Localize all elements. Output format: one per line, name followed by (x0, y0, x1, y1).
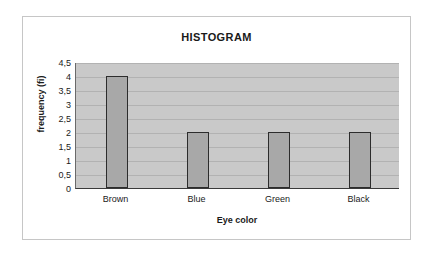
y-axis-tick-label: 0 (66, 185, 71, 194)
bar-green (268, 132, 290, 188)
y-axis-tick-label: 4 (66, 73, 71, 82)
bar-blue (187, 132, 209, 188)
plot-area (75, 63, 399, 189)
x-axis-tick-label: Brown (75, 194, 156, 205)
y-axis-tick-label: 4,5 (58, 59, 71, 68)
x-axis-title: Eye color (75, 215, 399, 225)
y-axis-tick-label: 0,5 (58, 171, 71, 180)
y-axis-tick-label: 1 (66, 157, 71, 166)
y-axis-tick-label: 2,5 (58, 115, 71, 124)
chart-frame: HISTOGRAM frequency (fi) 4,543,532,521,5… (22, 16, 411, 240)
x-axis-tick-label: Blue (156, 194, 237, 205)
y-axis-tick-label: 1,5 (58, 143, 71, 152)
bars-layer (76, 63, 399, 188)
chart-title: HISTOGRAM (23, 31, 410, 43)
y-axis-tick-label: 3,5 (58, 87, 71, 96)
x-axis-tick-labels: BrownBlueGreenBlack (75, 194, 399, 208)
bar-brown (106, 76, 128, 188)
bar-black (349, 132, 371, 188)
histogram-figure: HISTOGRAM frequency (fi) 4,543,532,521,5… (0, 0, 437, 256)
x-axis-tick-label: Black (318, 194, 399, 205)
x-axis-tick-label: Green (237, 194, 318, 205)
y-axis-tick-labels: 4,543,532,521,510,50 (37, 63, 71, 189)
y-axis-tick-label: 3 (66, 101, 71, 110)
y-axis-tick-label: 2 (66, 129, 71, 138)
